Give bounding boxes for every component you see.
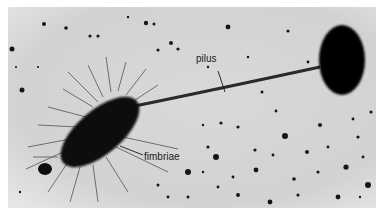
right-cell — [319, 25, 365, 95]
pilus-label: pilus — [196, 54, 217, 64]
fimbriae-label: fimbriae — [144, 152, 180, 162]
micrograph-figure: pilus fimbriae — [0, 0, 382, 218]
micrograph-photo — [8, 7, 376, 208]
micrograph-illustration — [8, 7, 376, 208]
small-body — [38, 163, 52, 175]
